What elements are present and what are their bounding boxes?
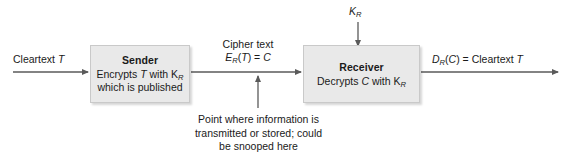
snoop-annotation-line-2: transmitted or stored; could [156, 127, 361, 141]
cipher-text-name: Cipher text [199, 38, 297, 51]
decrypt-formula-subscript: R [440, 58, 445, 67]
cipher-text-label: Cipher text ER(T) = C [199, 38, 297, 64]
sender-line-2: which is published [97, 81, 182, 94]
sender-node: Sender Encrypts T with KR which is publi… [90, 45, 190, 103]
cipher-formula-subscript: R [232, 56, 237, 65]
sender-line-1-text: Encrypts T with K [96, 68, 178, 80]
sender-line-1: Encrypts T with KR [96, 68, 183, 81]
decrypt-formula-lead: D [432, 53, 440, 65]
receiver-key-subscript: R [356, 10, 361, 19]
receiver-key-lead: K [349, 5, 356, 17]
receiver-line-1: Decrypts C with KR [317, 75, 406, 88]
receiver-title: Receiver [339, 61, 384, 74]
cleartext-input-label: Cleartext T [13, 53, 64, 66]
diagram-canvas: Sender Encrypts T with KR which is publi… [0, 0, 566, 163]
receiver-line-1-text: Decrypts C with K [317, 75, 400, 87]
cipher-formula-rest: (T) = C [238, 51, 271, 63]
snoop-annotation-line-1: Point where information is [156, 113, 361, 127]
receiver-line-1-subscript: R [400, 80, 405, 89]
sender-title: Sender [122, 54, 158, 67]
snoop-annotation: Point where information is transmitted o… [156, 113, 361, 154]
snoop-annotation-line-3: be snooped here [156, 140, 361, 154]
receiver-node: Receiver Decrypts C with KR [303, 45, 420, 103]
receiver-key-label: KR [349, 5, 362, 18]
cipher-text-formula: ER(T) = C [199, 51, 297, 64]
sender-line-1-subscript: R [178, 73, 183, 82]
decrypt-output-label: DR(C) = Cleartext T [432, 53, 523, 66]
decrypt-formula-rest: (C) = Cleartext T [445, 53, 523, 65]
